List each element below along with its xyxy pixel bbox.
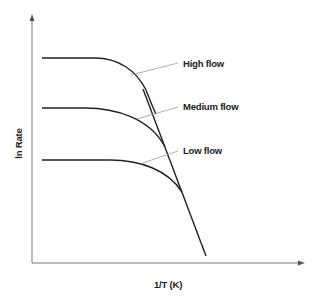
y-axis-label: ln Rate — [13, 124, 24, 164]
chart-canvas — [0, 0, 316, 296]
x-axis-arrow-icon — [298, 261, 305, 266]
high-flow-curve — [42, 58, 156, 114]
low-flow-curve — [42, 160, 182, 192]
diagonal-line — [143, 89, 206, 256]
medium-flow-label: Medium flow — [183, 101, 238, 112]
high-flow-label: High flow — [183, 58, 224, 69]
axes — [30, 14, 306, 266]
medium-flow-curve — [42, 108, 165, 147]
medium-flow-leader — [137, 107, 178, 119]
y-axis-arrow-icon — [30, 14, 35, 21]
low-flow-label: Low flow — [183, 145, 222, 156]
low-flow-leader — [143, 151, 178, 163]
high-flow-leader — [131, 63, 178, 75]
x-axis-label: 1/T (K) — [154, 279, 182, 290]
